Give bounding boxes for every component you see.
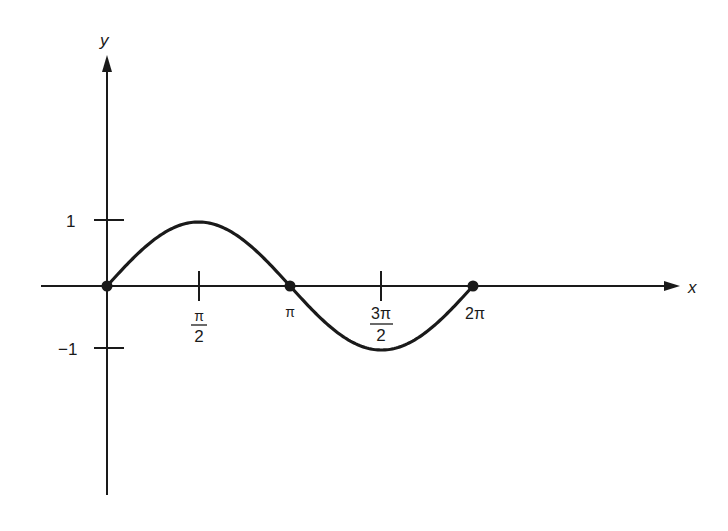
y-axis-arrow-icon [102,55,112,72]
point-2pi [468,281,479,292]
x-tick-label-3pi-over-2-den: 2 [376,326,385,345]
sine-plot: x y 1 −1 π 2 π 3π 2 2π [0,0,728,531]
x-axis-arrow-icon [664,281,680,291]
y-tick-label-1: 1 [66,212,75,231]
point-origin [102,281,113,292]
y-axis-label: y [99,31,110,50]
x-axis-label: x [687,278,697,297]
x-tick-label-pi-over-2-den: 2 [194,327,203,346]
x-tick-label-3pi-over-2-num: 3π [371,305,391,322]
x-tick-label-pi-over-2-num: π [194,308,204,324]
point-pi [285,281,296,292]
x-tick-label-2pi: 2π [465,305,485,322]
y-tick-label-neg1: −1 [58,340,77,359]
x-tick-label-pi: π [285,304,295,320]
